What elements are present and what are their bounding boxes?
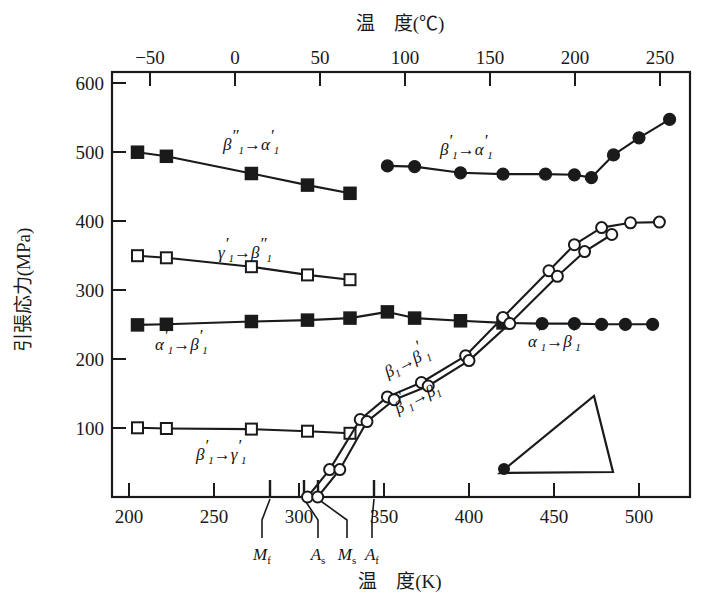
- data-point-marker: [606, 229, 617, 240]
- bottom-axis-title: 温 度(K): [358, 571, 441, 593]
- bottom-tick-label: 500: [625, 506, 654, 527]
- data-point-marker: [540, 168, 552, 180]
- data-point-marker: [245, 316, 257, 328]
- data-point-marker: [664, 113, 676, 125]
- data-point-marker: [409, 161, 421, 173]
- y-tick-label: 400: [76, 211, 105, 232]
- y-tick-label: 600: [76, 73, 105, 94]
- data-point-marker: [132, 422, 143, 433]
- data-point-marker: [132, 146, 144, 158]
- top-axis-title: 温 度(℃): [356, 13, 445, 35]
- data-point-marker: [654, 217, 665, 228]
- data-point-marker: [245, 168, 257, 180]
- bottom-tick-label: 350: [370, 506, 399, 527]
- y-tick-label: 200: [76, 349, 105, 370]
- data-point-marker: [302, 314, 314, 326]
- top-tick-label: 100: [391, 47, 420, 68]
- top-tick-label: 50: [311, 47, 330, 68]
- data-point-marker: [409, 312, 421, 324]
- data-point-marker: [246, 424, 257, 435]
- bottom-tick-label: 400: [455, 506, 484, 527]
- data-point-marker: [619, 318, 631, 330]
- stress-temperature-chart: 温 度(℃) 温 度(K) 引張応力(MPa) −50 0 50 100 150…: [0, 0, 719, 600]
- data-point-marker: [334, 464, 345, 475]
- data-point-marker: [455, 315, 467, 327]
- top-tick-label: 200: [561, 47, 590, 68]
- data-point-marker: [381, 306, 393, 318]
- data-point-marker: [647, 318, 659, 330]
- data-point-marker: [464, 355, 475, 366]
- data-point-marker: [302, 269, 313, 280]
- data-point-marker: [246, 261, 257, 272]
- data-point-marker: [552, 271, 563, 282]
- data-point-marker: [344, 312, 356, 324]
- data-point-marker: [302, 179, 314, 191]
- data-point-marker: [312, 492, 323, 503]
- data-point-marker: [596, 222, 607, 233]
- data-point-marker: [585, 172, 597, 184]
- data-point-marker: [362, 416, 373, 427]
- data-point-marker: [455, 167, 467, 179]
- top-tick-label: 250: [646, 47, 675, 68]
- data-point-marker: [345, 274, 356, 285]
- y-tick-label: 300: [76, 280, 105, 301]
- data-point-marker: [608, 149, 620, 161]
- data-point-marker: [568, 169, 580, 181]
- data-point-marker: [160, 150, 172, 162]
- data-point-marker: [302, 426, 313, 437]
- data-point-marker: [504, 318, 515, 329]
- top-tick-label: −50: [135, 47, 165, 68]
- chart-background: [0, 0, 719, 600]
- data-point-marker: [596, 318, 608, 330]
- triangle-inset-vertex-dot: [498, 463, 510, 475]
- bottom-tick-label: 300: [285, 506, 314, 527]
- figure-container: 温 度(℃) 温 度(K) 引張応力(MPa) −50 0 50 100 150…: [0, 0, 719, 600]
- data-point-marker: [132, 319, 144, 331]
- data-point-marker: [625, 217, 636, 228]
- bottom-tick-label: 450: [540, 506, 569, 527]
- data-point-marker: [161, 423, 172, 434]
- data-point-marker: [579, 246, 590, 257]
- data-point-marker: [569, 239, 580, 250]
- bottom-tick-label: 250: [200, 506, 229, 527]
- data-point-marker: [633, 132, 645, 144]
- data-point-marker: [161, 252, 172, 263]
- top-tick-label: 0: [230, 47, 240, 68]
- data-point-marker: [497, 168, 509, 180]
- top-tick-label: 150: [476, 47, 505, 68]
- data-point-marker: [381, 160, 393, 172]
- y-tick-label: 500: [76, 142, 105, 163]
- data-point-marker: [344, 187, 356, 199]
- bottom-tick-label: 200: [115, 506, 144, 527]
- y-axis-title: 引張応力(MPa): [13, 228, 35, 353]
- data-point-marker: [132, 250, 143, 261]
- y-tick-label: 100: [76, 418, 105, 439]
